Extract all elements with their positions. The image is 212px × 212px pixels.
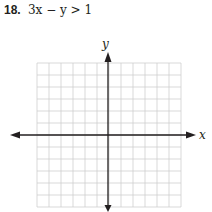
- y-axis-up-arrow-icon: [105, 52, 112, 62]
- x-axis-left-arrow-icon: [10, 132, 20, 139]
- coordinate-grid: [0, 0, 212, 212]
- x-axis-right-arrow-icon: [186, 132, 196, 139]
- x-axis-label: x: [199, 128, 206, 142]
- y-axis-label: y: [102, 37, 109, 51]
- y-axis-down-arrow-icon: [105, 205, 112, 212]
